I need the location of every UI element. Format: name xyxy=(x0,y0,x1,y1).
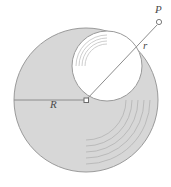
center-marker xyxy=(84,98,89,103)
figure-canvas xyxy=(0,0,171,187)
inner-circle xyxy=(72,31,142,101)
label-radius-R: R xyxy=(50,99,57,110)
label-point-p: P xyxy=(155,4,162,15)
geometry-figure: P r R xyxy=(0,0,171,187)
point-p-marker xyxy=(156,19,161,24)
label-radius-r: r xyxy=(143,40,147,51)
